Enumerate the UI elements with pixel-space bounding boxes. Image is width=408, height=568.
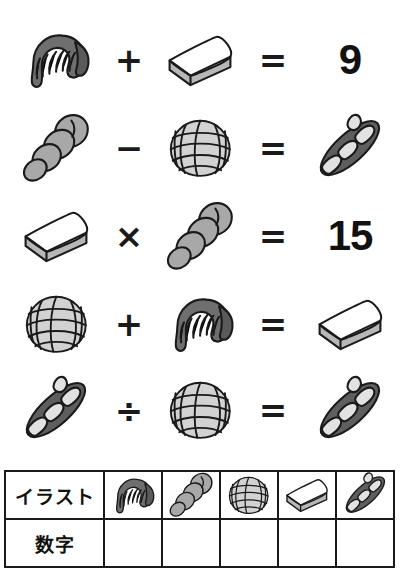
operand-right <box>152 366 248 454</box>
operator-symbol: × <box>104 192 154 280</box>
answer-table-icon-cell <box>220 471 278 519</box>
equation-row: + =9 <box>0 16 408 104</box>
cell-icon-wrap <box>221 472 277 518</box>
equation-result: 9 <box>298 16 402 104</box>
operand-left <box>8 366 104 454</box>
bread-slice-icon <box>162 31 238 90</box>
answer-input-cell[interactable] <box>220 519 278 567</box>
equation-row: + = <box>0 280 408 368</box>
bread-slice-icon <box>312 295 388 354</box>
row-label: イラスト <box>5 471 104 519</box>
answer-table: イラスト <box>4 470 395 568</box>
baguette-icon <box>340 471 391 518</box>
cell-icon-wrap <box>163 472 219 518</box>
result-number: 9 <box>339 39 361 81</box>
answer-table-row: イラスト <box>5 471 394 519</box>
operand-left <box>8 16 104 104</box>
equals-symbol: = <box>248 16 298 104</box>
equals-glyph: = <box>259 219 288 253</box>
operand-right <box>152 16 248 104</box>
equals-symbol: = <box>248 104 298 192</box>
bread-slice-icon <box>282 476 332 514</box>
equation-result <box>298 104 402 192</box>
operator-symbol: + <box>104 16 154 104</box>
answer-table-icon-cell <box>104 471 162 519</box>
equals-glyph: = <box>259 43 288 77</box>
melon-pan-icon <box>23 293 90 356</box>
equation-row: ÷ = <box>0 366 408 454</box>
answer-input-cell[interactable] <box>104 519 162 567</box>
operand-right <box>152 192 248 280</box>
operator-glyph: × <box>115 219 144 253</box>
cell-icon-wrap <box>105 472 161 518</box>
answer-table-row: 数字 <box>5 519 394 567</box>
answer-table-icon-cell <box>336 471 394 519</box>
operand-left <box>8 104 104 192</box>
baguette-icon <box>311 112 389 184</box>
equation-result <box>298 280 402 368</box>
equals-symbol: = <box>248 366 298 454</box>
baguette-icon <box>311 374 389 446</box>
bread-slice-icon <box>18 207 94 266</box>
equals-symbol: = <box>248 280 298 368</box>
answer-input-cell[interactable] <box>278 519 336 567</box>
answer-input-cell[interactable] <box>162 519 220 567</box>
equals-symbol: = <box>248 192 298 280</box>
operator-glyph: + <box>115 307 144 341</box>
answer-input-cell[interactable] <box>336 519 394 567</box>
result-number: 15 <box>328 215 373 257</box>
equation-list: + =9 − <box>0 0 408 455</box>
answer-table-body: イラスト <box>5 471 394 567</box>
cell-icon-wrap <box>337 472 393 518</box>
croissant-icon <box>20 29 92 92</box>
twist-bread-icon <box>169 472 214 518</box>
croissant-icon <box>109 475 156 516</box>
equals-glyph: = <box>259 393 288 427</box>
operand-right <box>152 280 248 368</box>
operator-symbol: − <box>104 104 154 192</box>
croissant-icon <box>164 293 236 356</box>
cell-icon-wrap <box>279 472 335 518</box>
melon-pan-icon <box>227 475 270 516</box>
equation-row: − = <box>0 104 408 192</box>
equation-row: × =15 <box>0 192 408 280</box>
operator-symbol: + <box>104 280 154 368</box>
equation-result <box>298 366 402 454</box>
twist-bread-icon <box>166 201 234 271</box>
equation-result: 15 <box>298 192 402 280</box>
equals-glyph: = <box>259 131 288 165</box>
melon-pan-icon <box>167 379 234 442</box>
answer-table-icon-cell <box>278 471 336 519</box>
operand-left <box>8 280 104 368</box>
melon-pan-icon <box>167 117 234 180</box>
baguette-icon <box>17 374 95 446</box>
operator-symbol: ÷ <box>104 366 154 454</box>
equals-glyph: = <box>259 307 288 341</box>
operand-right <box>152 104 248 192</box>
answer-table-icon-cell <box>162 471 220 519</box>
operator-glyph: ÷ <box>115 393 144 427</box>
operator-glyph: − <box>115 131 144 165</box>
operand-left <box>8 192 104 280</box>
operator-glyph: + <box>115 43 144 77</box>
twist-bread-icon <box>22 113 90 183</box>
row-label: 数字 <box>5 519 104 567</box>
